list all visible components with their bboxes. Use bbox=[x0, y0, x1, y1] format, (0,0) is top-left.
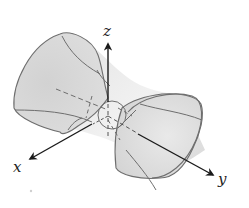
hyperboloid-diagram: z x y bbox=[0, 0, 249, 208]
speck bbox=[30, 190, 32, 192]
y-axis-label: y bbox=[217, 170, 227, 188]
x-axis-label: x bbox=[13, 158, 22, 176]
hyperboloid-surface bbox=[14, 33, 205, 190]
z-axis-label: z bbox=[102, 22, 111, 40]
right-bell bbox=[115, 94, 202, 179]
